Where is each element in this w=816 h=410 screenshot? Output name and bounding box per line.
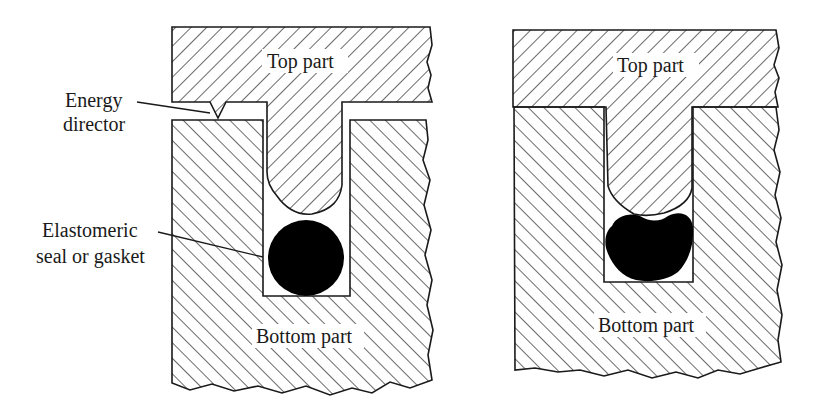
label-top-part-after: Top part (617, 54, 684, 77)
label-bottom-part-after: Bottom part (598, 314, 695, 337)
label-energy-director-line2: director (63, 113, 126, 135)
label-seal-line2: seal or gasket (36, 245, 145, 268)
panel-before: Top part Bottom part Energy director Ela… (36, 27, 433, 395)
panel-after: Top part Bottom part (513, 30, 782, 378)
label-seal-line1: Elastomeric (42, 219, 138, 241)
seal-deformed (605, 213, 693, 281)
label-energy-director-line1: Energy (65, 89, 122, 112)
seal-round (268, 220, 344, 296)
leader-energy-director (137, 102, 210, 113)
label-top-part-before: Top part (267, 50, 334, 73)
label-bottom-part-before: Bottom part (256, 325, 353, 348)
seal-diagram: Top part Bottom part Energy director Ela… (0, 0, 816, 410)
